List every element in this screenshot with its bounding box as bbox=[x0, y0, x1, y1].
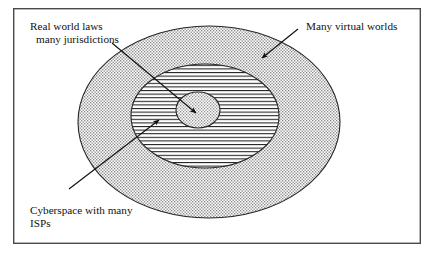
label-cyberspace-line1: Cyberspace with many bbox=[30, 204, 133, 216]
label-real-world-laws-line2: many jurisdictions bbox=[36, 33, 119, 45]
label-cyberspace-line2: ISPs bbox=[30, 217, 51, 229]
diagram-canvas: Real world laws many jurisdictions Many … bbox=[0, 0, 434, 260]
inner-ellipse-real-world-laws bbox=[176, 92, 220, 128]
label-many-virtual-worlds: Many virtual worlds bbox=[306, 20, 397, 32]
nested-ellipse-diagram: Real world laws many jurisdictions Many … bbox=[0, 0, 434, 260]
label-real-world-laws-line1: Real world laws bbox=[30, 20, 103, 32]
